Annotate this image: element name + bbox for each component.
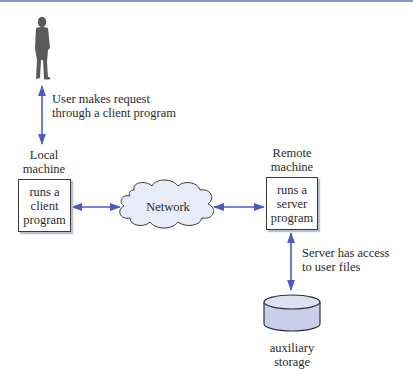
remote-machine-caption: Remote machine <box>262 146 322 174</box>
auxiliary-storage-label: auxiliary storage <box>262 341 322 369</box>
local-machine-caption: Local machine <box>14 148 74 176</box>
server-program-label: runs a server program <box>271 183 313 225</box>
client-program-box: runs a client program <box>18 179 71 232</box>
edge-label-server-access: Server has access to user files <box>302 246 389 274</box>
database-cylinder-icon <box>264 295 320 331</box>
network-label: Network <box>138 200 198 214</box>
client-program-label: runs a client program <box>23 185 65 227</box>
person-icon <box>35 17 50 80</box>
edge-label-user-request: User makes request through a client prog… <box>52 92 176 120</box>
server-program-box: runs a server program <box>266 177 318 230</box>
